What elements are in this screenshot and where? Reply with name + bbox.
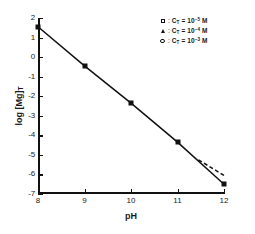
legend: :CT = 10−5 M:CT = 10−4 M:CT = 10−3 M [158, 16, 208, 46]
open-square-icon [158, 19, 167, 23]
legend-separator: : [168, 16, 170, 26]
y-tick-label: -7 [28, 190, 35, 198]
legend-separator: : [168, 26, 170, 36]
y-tick-label: -5 [28, 151, 35, 159]
x-tick-label: 10 [127, 197, 136, 205]
y-axis-title-subscript: T [17, 87, 24, 91]
filled-triangle-icon [158, 29, 167, 33]
legend-separator: : [168, 36, 170, 46]
legend-label: CT = 10−3 M [172, 35, 208, 48]
y-tick-label: -1 [28, 73, 35, 81]
data-point-marker [222, 182, 227, 187]
x-tick-label: 11 [173, 197, 181, 205]
x-axis-title: pH [38, 212, 224, 221]
legend-item: :CT = 10−3 M [158, 36, 208, 46]
y-tick-label: 0 [31, 53, 35, 61]
open-circle-icon [158, 39, 167, 43]
y-tick-label: -4 [28, 131, 35, 139]
y-tick [38, 194, 43, 195]
y-tick-label: 2 [31, 14, 35, 22]
data-point-marker [175, 140, 180, 145]
y-tick-label: -2 [28, 92, 35, 100]
y-axis-title: log [Mg]T [12, 18, 26, 194]
x-tick-label: 9 [82, 197, 86, 205]
x-tick [224, 189, 225, 194]
data-point-marker [129, 101, 134, 106]
chart-figure: 210-1-2-3-4-5-6-7 89101112 pH log [Mg]T … [0, 0, 255, 234]
y-tick-label: 1 [31, 34, 35, 42]
y-tick-label: -3 [28, 112, 35, 120]
x-tick-label: 12 [220, 197, 229, 205]
y-tick-label: -6 [28, 170, 35, 178]
y-axis-title-prefix: log [Mg] [14, 91, 24, 126]
data-point-marker [36, 24, 41, 29]
x-tick-label: 8 [36, 197, 40, 205]
data-point-marker [82, 63, 87, 68]
